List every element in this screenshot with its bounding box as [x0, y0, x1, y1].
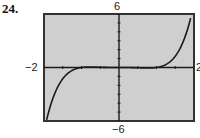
- graph-plot: [0, 0, 200, 138]
